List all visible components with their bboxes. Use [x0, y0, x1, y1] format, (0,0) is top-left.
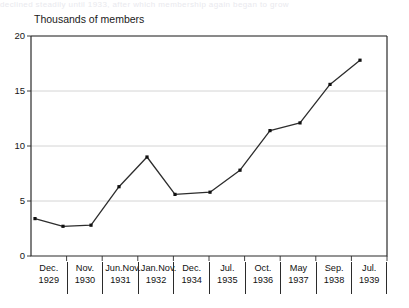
x-axis-year-label: 1935	[210, 274, 245, 286]
x-axis-month-row: Jan.Nov.	[139, 262, 174, 274]
x-axis-month-label: May	[290, 262, 307, 274]
x-axis-month-label: Jul.	[362, 262, 376, 274]
x-axis-label-group: Dec.1929	[31, 262, 67, 294]
gridlines	[31, 36, 387, 201]
data-point-marker	[268, 129, 271, 132]
x-axis-label-group: May1937	[280, 262, 316, 294]
data-point-marker	[208, 191, 211, 194]
x-axis-year-label: 1937	[281, 274, 316, 286]
x-axis-month-row: Jul.	[352, 262, 386, 274]
x-axis-year-label: 1930	[68, 274, 103, 286]
x-axis-label-group: Jul.1935	[209, 262, 245, 294]
x-axis-month-label: Jul.	[220, 262, 234, 274]
x-axis-month-row: Dec.	[174, 262, 209, 274]
data-point-marker	[61, 225, 64, 228]
data-point-marker	[89, 224, 92, 227]
x-axis-label-group: Jun.Nov.1931	[102, 262, 138, 294]
data-point-marker	[173, 193, 176, 196]
data-point-marker	[33, 217, 36, 220]
data-point-marker	[117, 185, 120, 188]
x-axis-label-group: Nov.1930	[67, 262, 103, 294]
x-axis-year-label: 1938	[317, 274, 352, 286]
x-axis-month-label: Dec.	[39, 262, 58, 274]
x-axis-month-row: Nov.	[68, 262, 103, 274]
data-point-markers	[33, 59, 361, 228]
x-axis-year-label: 1936	[246, 274, 281, 286]
x-axis-month-row: Oct.	[246, 262, 281, 274]
x-axis-month-row: May	[281, 262, 316, 274]
data-point-marker	[238, 169, 241, 172]
x-axis-month-label: Oct.	[254, 262, 271, 274]
x-axis-ticks	[27, 36, 387, 261]
membership-line-chart: declined steadily until 1933, after whic…	[0, 0, 409, 308]
y-axis-tick-label: 20	[3, 31, 25, 41]
x-axis-month-row: Jun.Nov.	[103, 262, 138, 274]
x-axis-label-group: Oct.1936	[245, 262, 281, 294]
x-axis-label-group: Jan.Nov.1932	[138, 262, 174, 294]
x-axis-year-label: 1939	[352, 274, 386, 286]
x-axis-month-row: Dec.	[31, 262, 67, 274]
y-axis-tick-label: 0	[3, 251, 25, 261]
y-axis-tick-label: 10	[3, 141, 25, 151]
x-axis-label-group: Dec.1934	[173, 262, 209, 294]
y-axis-tick-label: 5	[3, 196, 25, 206]
y-axis-tick-label: 15	[3, 86, 25, 96]
data-point-marker	[328, 83, 331, 86]
data-point-marker	[145, 155, 148, 158]
x-axis-month-label: Sep.	[325, 262, 344, 274]
x-axis-label-group: Jul.1939	[351, 262, 387, 294]
x-axis-year-label: 1931	[103, 274, 138, 286]
x-axis-month-label: Nov.	[76, 262, 94, 274]
x-axis-year-label: 1934	[174, 274, 209, 286]
data-point-marker	[298, 121, 301, 124]
x-axis-month-label: Dec.	[182, 262, 201, 274]
x-axis-label-group: Sep.1938	[316, 262, 352, 294]
x-axis-month-label: Jan.	[141, 262, 158, 274]
x-axis-year-label: 1929	[31, 274, 67, 286]
x-axis-month-row: Sep.	[317, 262, 352, 274]
x-axis-month-label: Jun.	[105, 262, 122, 274]
data-point-marker	[358, 59, 361, 62]
x-axis-month-row: Jul.	[210, 262, 245, 274]
x-axis-year-label: 1932	[139, 274, 174, 286]
x-axis-tick-labels: Dec.1929Nov.1930Jun.Nov.1931Jan.Nov.1932…	[31, 262, 387, 296]
